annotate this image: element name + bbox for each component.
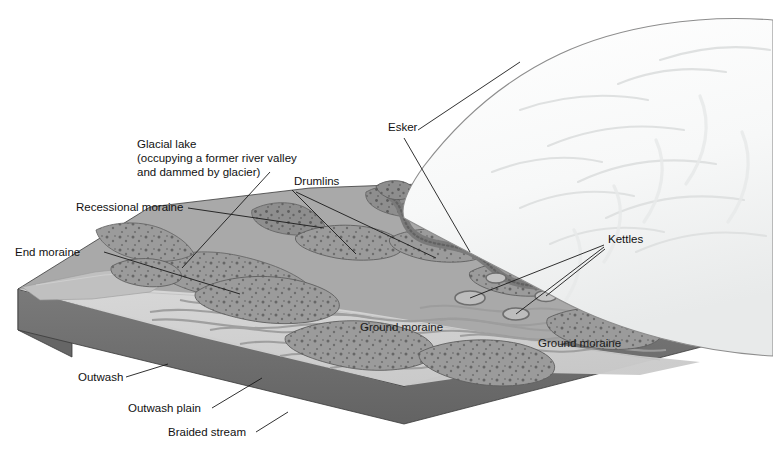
label-recessional-moraine: Recessional moraine — [76, 201, 183, 213]
label-glacial-lake-line2: (occupying a former river valley — [137, 152, 297, 164]
label-braided-stream: Braided stream — [168, 426, 246, 438]
label-ground-moraine-left: Ground moraine — [360, 321, 443, 333]
label-drumlins: Drumlins — [294, 175, 340, 187]
label-esker: Esker — [388, 121, 418, 133]
label-glacial-lake-line1: Glacial lake — [137, 138, 196, 150]
label-ground-moraine-right: Ground moraine — [538, 337, 621, 349]
label-kettles: Kettles — [608, 233, 643, 245]
label-outwash: Outwash — [78, 371, 123, 383]
label-end-moraine: End moraine — [15, 246, 80, 258]
label-glacial-lake-line3: and dammed by glacier) — [137, 166, 261, 178]
figure-canvas: Glacial lake (occupying a former river v… — [0, 0, 773, 471]
glacial-landforms-block-diagram: Glacial lake (occupying a former river v… — [0, 0, 773, 471]
label-outwash-plain: Outwash plain — [128, 402, 201, 414]
